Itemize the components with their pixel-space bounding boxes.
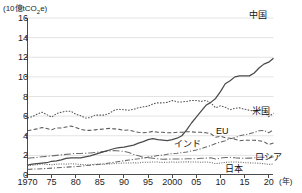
x-tick-mark <box>172 175 173 178</box>
series-label-russia: ロシア <box>255 153 282 162</box>
series-label-india: インド <box>174 140 201 149</box>
x-tick-mark <box>196 175 197 178</box>
x-axis-unit-label: (年) <box>279 178 292 186</box>
y-tick-mark <box>25 37 28 38</box>
emissions-line-chart: (10億tCO2e) 1614121086420 197075808590952… <box>0 0 302 193</box>
x-tick-mark <box>75 175 76 178</box>
x-tick-mark <box>148 175 149 178</box>
x-tick-mark <box>99 175 100 178</box>
y-tick-mark <box>25 57 28 58</box>
x-tick-label: 90 <box>119 178 129 187</box>
y-tick-mark <box>25 96 28 97</box>
x-tick-mark <box>220 175 221 178</box>
y-tick-mark <box>25 18 28 19</box>
y-tick-mark <box>25 76 28 77</box>
x-tick-mark <box>51 175 52 178</box>
x-tick-label: 20 <box>264 178 274 187</box>
x-tick-label: 1970 <box>17 178 37 187</box>
x-tick-label: 2000 <box>162 178 182 187</box>
chart-canvas <box>0 0 302 193</box>
x-tick-label: 10 <box>215 178 225 187</box>
x-tick-mark <box>27 175 28 178</box>
x-tick-label: 75 <box>47 178 57 187</box>
x-tick-label: 05 <box>191 178 201 187</box>
x-tick-label: 95 <box>143 178 153 187</box>
x-tick-mark <box>244 175 245 178</box>
x-tick-mark <box>268 175 269 178</box>
x-tick-label: 15 <box>240 178 250 187</box>
y-tick-mark <box>25 135 28 136</box>
x-tick-label: 80 <box>71 178 81 187</box>
series-label-china: 中国 <box>249 11 267 20</box>
x-tick-label: 85 <box>95 178 105 187</box>
y-tick-mark <box>25 116 28 117</box>
series-label-usa: 米国 <box>252 107 270 116</box>
series-label-japan: 日本 <box>225 165 243 174</box>
series-label-eu: EU <box>216 127 229 136</box>
y-tick-mark <box>25 155 28 156</box>
x-tick-mark <box>123 175 124 178</box>
